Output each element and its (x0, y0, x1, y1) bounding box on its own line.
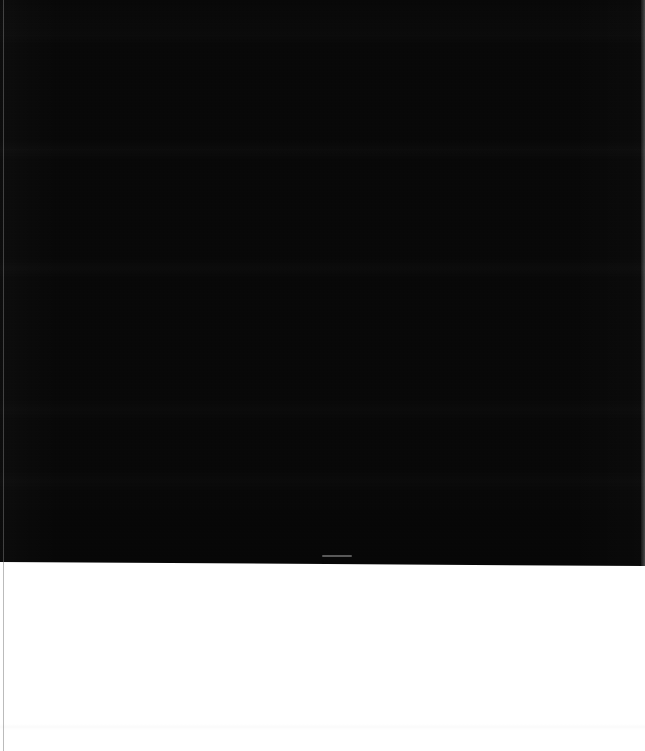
blank-dark-area (0, 0, 645, 567)
dark-horizontal-shading (0, 0, 645, 567)
gray-streak-artifact (322, 555, 352, 557)
screenshot-canvas: Screen capture containing no rendered in… (0, 0, 645, 751)
dark-sensor-noise (0, 0, 645, 567)
dark-horizontal-banding (0, 0, 645, 567)
